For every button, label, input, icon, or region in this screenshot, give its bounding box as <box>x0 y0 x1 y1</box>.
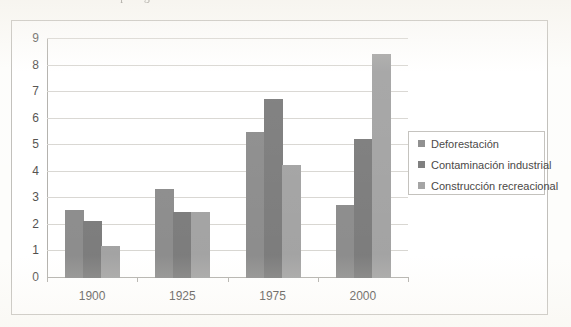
legend-item[interactable]: Deforestación <box>409 133 544 154</box>
page-caption-text: conocidas de la zona protegida en los úl… <box>22 0 231 2</box>
bar <box>173 212 192 278</box>
legend-label: Deforestación <box>431 138 499 150</box>
bar-group <box>246 38 300 278</box>
y-tick-label: 2 <box>17 218 39 230</box>
x-category-label: 1975 <box>228 290 318 302</box>
y-tick-label: 7 <box>17 85 39 97</box>
x-axis-tick <box>137 277 138 282</box>
legend-item[interactable]: Contaminación industrial <box>409 154 544 175</box>
x-axis-tick <box>318 277 319 282</box>
bar <box>354 139 373 278</box>
page-caption-strip: conocidas de la zona protegida en los úl… <box>0 0 571 11</box>
x-axis-tick <box>408 277 409 282</box>
bar <box>101 246 120 278</box>
bar <box>83 221 102 278</box>
y-tick-label: 4 <box>17 165 39 177</box>
legend-label: Contaminación industrial <box>431 159 551 171</box>
bar <box>372 54 391 278</box>
legend-label: Construcción recreacional <box>431 180 558 192</box>
y-tick-label: 0 <box>17 271 39 283</box>
bar <box>282 165 301 278</box>
bar <box>155 189 174 278</box>
chart-legend: DeforestaciónContaminación industrialCon… <box>408 131 545 195</box>
legend-item[interactable]: Construcción recreacional <box>409 175 544 196</box>
y-tick-label: 3 <box>17 191 39 203</box>
legend-swatch-icon <box>418 182 425 189</box>
bar <box>65 210 84 278</box>
x-axis-tick <box>228 277 229 282</box>
x-category-label: 1900 <box>47 290 137 302</box>
x-axis-tick <box>47 277 48 282</box>
x-category-label: 1925 <box>137 290 227 302</box>
legend-swatch-icon <box>418 140 425 147</box>
y-tick-label: 5 <box>17 138 39 150</box>
bar-group <box>155 38 209 278</box>
y-tick-label: 8 <box>17 59 39 71</box>
bar <box>246 132 265 278</box>
x-category-label: 2000 <box>318 290 408 302</box>
bar <box>264 99 283 278</box>
bar-group <box>65 38 119 278</box>
bar <box>191 212 210 278</box>
bar-group <box>336 38 390 278</box>
y-axis-line <box>47 38 48 278</box>
y-tick-label: 1 <box>17 244 39 256</box>
y-tick-label: 9 <box>17 32 39 44</box>
bar <box>336 205 355 278</box>
chart-frame: 0123456789 1900192519752000 Deforestació… <box>11 20 548 315</box>
legend-swatch-icon <box>418 161 425 168</box>
y-tick-label: 6 <box>17 112 39 124</box>
